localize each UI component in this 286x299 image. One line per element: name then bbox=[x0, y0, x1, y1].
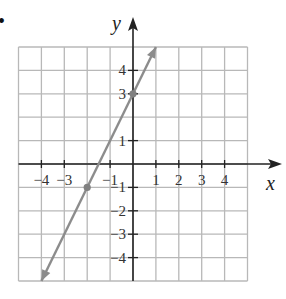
x-axis-label: x bbox=[265, 172, 275, 194]
y-tick-label: 1 bbox=[119, 133, 127, 149]
problem-bullet: • bbox=[0, 10, 5, 32]
y-tick-label: −1 bbox=[110, 179, 126, 195]
coordinate-plane: • −4−3−11234431−1−2−3−4 x y bbox=[0, 0, 286, 299]
y-tick-label: 3 bbox=[119, 86, 127, 102]
x-tick-label: −3 bbox=[56, 172, 72, 188]
x-tick-label: 4 bbox=[221, 172, 229, 188]
y-tick-label: 4 bbox=[119, 62, 127, 78]
x-tick-label: 1 bbox=[152, 172, 160, 188]
plotted-point bbox=[84, 184, 91, 191]
y-tick-label: −2 bbox=[110, 203, 126, 219]
x-tick-label: 2 bbox=[175, 172, 183, 188]
y-axis-label: y bbox=[110, 12, 121, 35]
plotted-point bbox=[129, 90, 136, 97]
y-tick-label: −4 bbox=[110, 250, 126, 266]
y-tick-label: −3 bbox=[110, 226, 126, 242]
x-tick-label: 3 bbox=[198, 172, 206, 188]
x-tick-label: −4 bbox=[33, 172, 49, 188]
